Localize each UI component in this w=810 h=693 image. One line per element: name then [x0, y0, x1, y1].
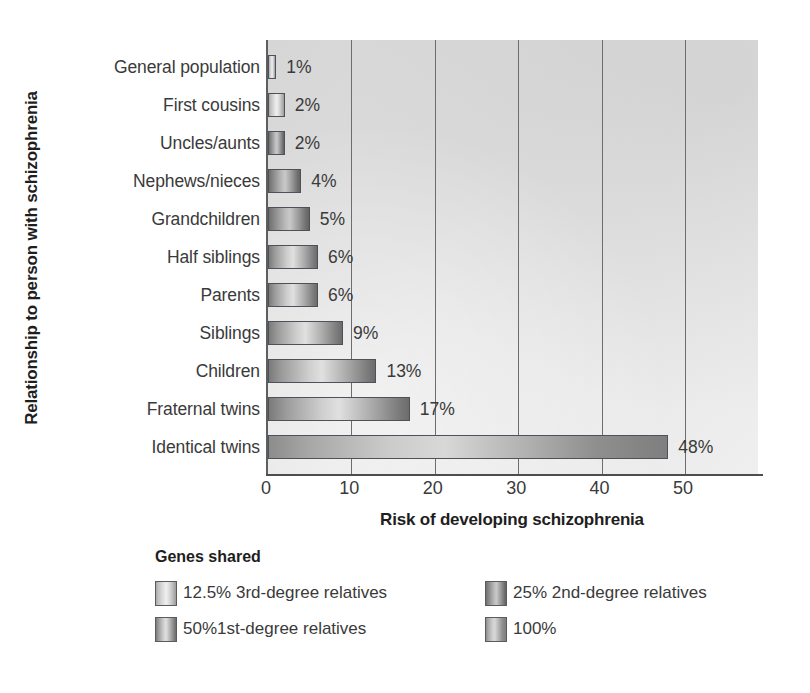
- x-tick-label: 50: [673, 478, 693, 499]
- bar-value-label: 9%: [353, 321, 378, 345]
- bar-value-label: 6%: [328, 283, 353, 307]
- bar-value-label: 48%: [678, 435, 713, 459]
- x-tick-label: 0: [261, 478, 271, 499]
- legend-label: 50%1st-degree relatives: [183, 614, 366, 644]
- bars-layer: 1%2%2%4%5%6%6%9%13%17%48%: [268, 40, 758, 474]
- legend: Genes shared 12.5% 3rd-degree relatives2…: [155, 548, 755, 658]
- category-label: Parents: [200, 276, 260, 314]
- y-axis-title: Relationship to person with schizophreni…: [22, 43, 42, 473]
- bar-row: 6%: [268, 238, 760, 276]
- legend-label: 25% 2nd-degree relatives: [513, 578, 707, 608]
- bar[interactable]: [268, 397, 410, 421]
- bar-value-label: 1%: [286, 55, 311, 79]
- bar-row: 5%: [268, 200, 760, 238]
- legend-swatch: [485, 581, 507, 606]
- bar[interactable]: [268, 131, 285, 155]
- bar[interactable]: [268, 359, 376, 383]
- bar-value-label: 6%: [328, 245, 353, 269]
- category-label: Half siblings: [167, 238, 260, 276]
- bar-row: 2%: [268, 124, 760, 162]
- bar-value-label: 4%: [311, 169, 336, 193]
- bar-row: 9%: [268, 314, 760, 352]
- legend-title: Genes shared: [155, 548, 261, 566]
- bar-row: 48%: [268, 428, 760, 466]
- category-label: Fraternal twins: [147, 390, 260, 428]
- x-tick-label: 10: [339, 478, 359, 499]
- legend-label: 12.5% 3rd-degree relatives: [183, 578, 387, 608]
- category-label: Children: [196, 352, 260, 390]
- category-label: Identical twins: [152, 428, 260, 466]
- category-label: Siblings: [200, 314, 260, 352]
- bar[interactable]: [268, 55, 276, 79]
- legend-swatch: [155, 617, 177, 642]
- bar[interactable]: [268, 169, 301, 193]
- x-axis-title: Risk of developing schizophrenia: [266, 510, 758, 530]
- bar-value-label: 13%: [386, 359, 421, 383]
- x-tick-label: 40: [590, 478, 610, 499]
- bar-row: 2%: [268, 86, 760, 124]
- bar[interactable]: [268, 283, 318, 307]
- bar[interactable]: [268, 207, 310, 231]
- bar[interactable]: [268, 93, 285, 117]
- category-label: Grandchildren: [151, 200, 260, 238]
- x-axis-line: [266, 474, 763, 476]
- category-label: Uncles/aunts: [160, 124, 260, 162]
- category-label: Nephews/nieces: [133, 162, 260, 200]
- bar-value-label: 2%: [295, 93, 320, 117]
- bar[interactable]: [268, 321, 343, 345]
- bar-row: 1%: [268, 48, 760, 86]
- chart-figure: Relationship to person with schizophreni…: [0, 0, 810, 693]
- bar[interactable]: [268, 435, 668, 459]
- bar-row: 13%: [268, 352, 760, 390]
- x-tick-label: 30: [506, 478, 526, 499]
- bar-row: 17%: [268, 390, 760, 428]
- bar-value-label: 2%: [295, 131, 320, 155]
- bar[interactable]: [268, 245, 318, 269]
- category-label: First cousins: [163, 86, 260, 124]
- plot-area: 1%2%2%4%5%6%6%9%13%17%48%: [266, 40, 758, 474]
- legend-swatch: [485, 617, 507, 642]
- legend-label: 100%: [513, 614, 556, 644]
- x-tick-label: 20: [423, 478, 443, 499]
- bar-row: 6%: [268, 276, 760, 314]
- y-axis-category-labels: General populationFirst cousinsUncles/au…: [56, 48, 260, 466]
- x-axis-tick-labels: 01020304050: [266, 478, 766, 506]
- category-label: General population: [114, 48, 260, 86]
- legend-swatch: [155, 581, 177, 606]
- bar-value-label: 5%: [320, 207, 345, 231]
- bar-row: 4%: [268, 162, 760, 200]
- bar-value-label: 17%: [420, 397, 455, 421]
